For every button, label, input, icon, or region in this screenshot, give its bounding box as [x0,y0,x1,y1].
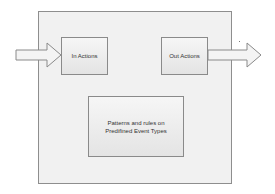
in-actions-label: In Actions [71,52,97,60]
patterns-label-line1: Patterns and rules on [105,119,167,127]
stray-dot [239,41,240,42]
output-arrow-icon [207,42,263,68]
out-actions-label: Out Actions [169,52,200,60]
input-arrow-icon [15,42,63,68]
patterns-label-line2: Predifined Event Types [105,127,167,135]
out-actions-box: Out Actions [161,37,208,75]
in-actions-box: In Actions [61,37,108,75]
patterns-rules-box: Patterns and rules on Predifined Event T… [88,96,184,157]
